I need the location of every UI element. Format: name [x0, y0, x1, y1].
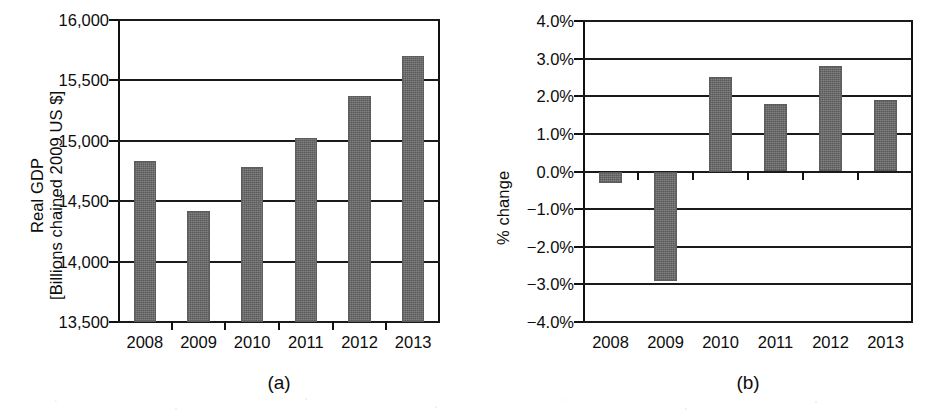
x-axis-tick-label-2010: 2010 — [702, 333, 739, 352]
x-axis-tick — [802, 171, 804, 180]
bar-2011 — [295, 138, 318, 322]
x-axis-tick-label-2008: 2008 — [126, 333, 163, 352]
gridline-y — [583, 321, 913, 323]
panel-a: Real GDP [Billions chained 2009 US $] 16… — [0, 0, 460, 417]
y-axis-tick-label: 2.0% — [536, 87, 583, 106]
y-axis-tick-label: 15,000 — [59, 131, 118, 150]
figure-two-panel-bar-charts: Real GDP [Billions chained 2009 US $] 16… — [0, 0, 927, 417]
x-axis-tick — [747, 171, 749, 180]
bar-2008 — [599, 172, 622, 183]
y-axis-tick-label: 0.0% — [536, 162, 583, 181]
gridline-y — [583, 283, 913, 285]
x-axis-tick — [637, 171, 639, 180]
bar-2013 — [402, 56, 425, 322]
bar-2010 — [241, 167, 264, 322]
plot-background — [118, 20, 440, 322]
x-axis-tick — [692, 171, 694, 180]
y-axis-label-line1: Real GDP — [28, 91, 47, 300]
y-axis-tick-label: −3.0% — [527, 275, 583, 294]
gridline-y — [118, 19, 440, 21]
bar-2009 — [187, 211, 210, 322]
x-axis-tick — [857, 171, 859, 180]
gridline-y — [118, 140, 440, 142]
bar-2011 — [764, 104, 787, 172]
y-axis-tick-label: 1.0% — [536, 124, 583, 143]
gridline-y — [583, 246, 913, 248]
plot-area-panel-b: 4.0%3.0%2.0%1.0%0.0%−1.0%−2.0%−3.0%−4.0%… — [583, 21, 913, 322]
x-axis-tick — [278, 321, 280, 330]
bar-2010 — [709, 77, 732, 171]
y-axis-label-line1: % change — [494, 171, 513, 245]
y-axis-tick-label: −2.0% — [527, 237, 583, 256]
gridline-y — [583, 208, 913, 210]
y-axis-tick-label: 3.0% — [536, 49, 583, 68]
x-axis-tick-label-2012: 2012 — [812, 333, 849, 352]
gridline-y — [118, 200, 440, 202]
gridline-y — [118, 79, 440, 81]
x-axis-tick-label-2011: 2011 — [288, 333, 323, 352]
y-axis-label-panel-b: % change — [494, 171, 513, 245]
x-axis-tick — [224, 321, 226, 330]
y-axis-tick-label: 4.0% — [536, 12, 583, 31]
x-axis-tick-label-2013: 2013 — [867, 333, 904, 352]
gridline-y — [583, 58, 913, 60]
gridline-y — [583, 133, 913, 135]
panel-caption-a: (a) — [267, 372, 290, 394]
x-axis-tick-label-2008: 2008 — [592, 333, 629, 352]
y-axis-tick-label: 14,000 — [59, 252, 118, 271]
bar-2008 — [134, 161, 157, 322]
plot-area-panel-a: 16,00015,50015,00014,50014,00013,5002008… — [118, 20, 440, 322]
gridline-y — [583, 95, 913, 97]
bar-2009 — [654, 172, 677, 281]
x-axis-tick-label-2010: 2010 — [234, 333, 271, 352]
y-axis-tick-label: 13,500 — [59, 313, 118, 332]
x-axis-tick-label-2009: 2009 — [647, 333, 684, 352]
x-axis-tick — [332, 321, 334, 330]
bar-2012 — [348, 96, 371, 322]
x-axis-tick-label-2013: 2013 — [395, 333, 432, 352]
bar-2013 — [874, 100, 897, 171]
panel-caption-b: (b) — [736, 372, 759, 394]
gridline-y — [583, 20, 913, 22]
y-axis-tick-label: −4.0% — [527, 313, 583, 332]
x-axis-tick-label-2009: 2009 — [180, 333, 217, 352]
x-axis-tick-label-2011: 2011 — [758, 333, 793, 352]
y-axis-tick-label: 15,500 — [59, 71, 118, 90]
y-axis-tick-label: −1.0% — [527, 200, 583, 219]
y-axis-tick-label: 16,000 — [59, 11, 118, 30]
y-axis-tick-label: 14,500 — [59, 192, 118, 211]
bar-2012 — [819, 66, 842, 171]
plot-frame-left-edge — [118, 20, 120, 322]
gridline-y — [118, 261, 440, 263]
x-axis-tick — [171, 321, 173, 330]
x-axis-tick-label-2012: 2012 — [341, 333, 378, 352]
plot-frame-right-edge — [438, 20, 440, 322]
panel-b: % change 4.0%3.0%2.0%1.0%0.0%−1.0%−2.0%−… — [460, 0, 927, 417]
x-axis-tick — [385, 321, 387, 330]
